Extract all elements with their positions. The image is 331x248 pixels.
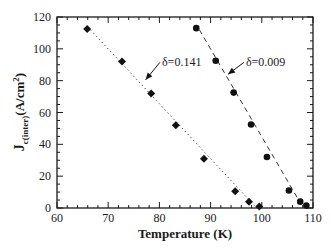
- diamond-marker: [147, 89, 155, 97]
- plot-frame: [57, 17, 313, 208]
- diamond-marker: [118, 58, 126, 66]
- annotation-label-0: δ=0.141: [162, 55, 201, 69]
- data-points: [83, 25, 309, 211]
- arrow-head-icon: [228, 68, 235, 75]
- temperature-jc-chart: 60708090100110020406080100120 δ=0.141δ=0…: [0, 0, 331, 248]
- circle-marker: [212, 57, 219, 64]
- annotation-label-1: δ=0.009: [246, 55, 285, 69]
- y-axis-title-sub: c(inter): [20, 116, 30, 144]
- y-axis-title-close: ): [12, 73, 27, 77]
- x-tick-label: 100: [253, 211, 271, 225]
- y-axis-title-main: J: [12, 144, 27, 151]
- diamond-marker: [200, 155, 208, 163]
- axis-tick-labels: 60708090100110020406080100120: [33, 10, 322, 225]
- y-tick-label: 100: [33, 42, 51, 56]
- circle-marker: [230, 89, 237, 96]
- y-tick-label: 80: [39, 74, 51, 88]
- y-tick-label: 40: [39, 137, 51, 151]
- svg-text:Jc(inter)(A/cm2): Jc(inter)(A/cm2): [11, 73, 30, 151]
- x-tick-label: 90: [205, 211, 217, 225]
- diamond-marker: [83, 25, 91, 33]
- circle-marker: [286, 187, 293, 194]
- y-tick-label: 0: [45, 201, 51, 215]
- x-tick-label: 60: [51, 211, 63, 225]
- circle-marker: [193, 25, 200, 32]
- axis-ticks: [57, 17, 313, 208]
- x-axis-title: Temperature (K): [138, 226, 232, 241]
- diamond-marker: [245, 198, 253, 206]
- diamond-marker: [231, 187, 239, 195]
- y-tick-label: 20: [39, 169, 51, 183]
- diamond-marker: [172, 121, 180, 129]
- circle-marker: [264, 154, 271, 161]
- x-tick-label: 80: [153, 211, 165, 225]
- x-tick-label: 70: [102, 211, 114, 225]
- y-axis-title: Jc(inter)(A/cm2): [11, 73, 30, 151]
- y-axis-title-units: (A/cm: [12, 82, 27, 116]
- x-tick-label: 110: [304, 211, 322, 225]
- y-tick-label: 120: [33, 10, 51, 24]
- circle-marker: [248, 121, 255, 128]
- y-tick-label: 60: [39, 106, 51, 120]
- circle-marker: [297, 198, 304, 205]
